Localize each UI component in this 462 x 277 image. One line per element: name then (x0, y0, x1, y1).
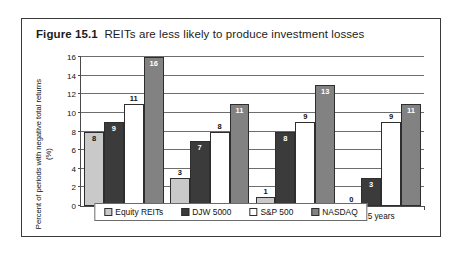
legend-label: Equity REITs (115, 207, 163, 217)
bar[interactable]: 9 (381, 122, 401, 206)
bar-value-label: 3 (178, 169, 182, 177)
bar-group: 891116 (81, 57, 167, 206)
bar[interactable]: 9 (295, 122, 315, 206)
bar[interactable]: 8 (275, 132, 295, 207)
y-tick-label: 6 (72, 146, 76, 155)
bar-value-label: 7 (198, 144, 202, 152)
figure-number: Figure 15.1 (36, 28, 98, 40)
bar-value-label: 11 (235, 107, 243, 115)
legend-item[interactable]: DJW 5000 (181, 207, 231, 217)
y-tick-label: 14 (67, 71, 76, 80)
y-tick-label: 0 (72, 202, 76, 211)
bar[interactable]: 8 (84, 132, 104, 207)
bar-value-label: 8 (283, 135, 287, 143)
bar-value-label: 9 (389, 113, 393, 121)
figure-box: Figure 15.1 REITs are less likely to pro… (21, 18, 441, 237)
bar-value-label: 11 (407, 107, 415, 115)
y-tick-label: 4 (72, 164, 76, 173)
bar[interactable]: 8 (210, 132, 230, 207)
bar-value-label: 9 (303, 113, 307, 121)
legend-item[interactable]: NASDAQ (311, 207, 357, 217)
bar-value-label: 1 (263, 188, 267, 196)
x-category-label: 5 years (368, 212, 395, 221)
y-tick-label: 10 (67, 108, 76, 117)
bar[interactable]: 11 (401, 104, 421, 206)
y-tick-label: 2 (72, 183, 76, 192)
y-axis-title: Percent of periods with negative total r… (34, 74, 56, 234)
legend-item[interactable]: S&P 500 (249, 207, 293, 217)
bar-value-label: 8 (92, 135, 96, 143)
legend-swatch (181, 208, 189, 216)
bars-layer: 8911162 years378113 years189134 years039… (81, 57, 424, 206)
bar-value-label: 11 (130, 95, 138, 103)
bar-group: 03911 (338, 57, 424, 206)
bar-group: 18913 (253, 57, 339, 206)
bar[interactable]: 16 (144, 57, 164, 206)
legend-swatch (311, 208, 319, 216)
legend-label: S&P 500 (260, 207, 293, 217)
x-tick-mark (424, 206, 425, 210)
bar[interactable]: 9 (104, 122, 124, 206)
bar-value-label: 9 (112, 125, 116, 133)
plot-frame: 0246810121416 8911162 years378113 years1… (80, 57, 424, 207)
bar-value-label: 3 (369, 181, 373, 189)
figure-caption-text: REITs are less likely to produce investm… (104, 28, 364, 40)
bar-group: 37811 (167, 57, 253, 206)
bar-value-label: 8 (217, 123, 221, 131)
legend-swatch (249, 208, 257, 216)
legend-item[interactable]: Equity REITs (104, 207, 163, 217)
bar[interactable]: 3 (361, 178, 381, 206)
legend-swatch (104, 208, 112, 216)
bar[interactable]: 11 (230, 104, 250, 206)
figure-caption: Figure 15.1 REITs are less likely to pro… (36, 28, 364, 40)
legend-label: DJW 5000 (192, 207, 231, 217)
chart-area: Percent of periods with negative total r… (36, 55, 428, 225)
y-tick-label: 12 (67, 90, 76, 99)
chart-legend: Equity REITsDJW 5000S&P 500NASDAQ (94, 203, 367, 221)
bar[interactable]: 7 (190, 141, 210, 206)
bar[interactable]: 11 (124, 104, 144, 206)
bar[interactable]: 3 (170, 178, 190, 206)
bar-value-label: 13 (321, 88, 329, 96)
y-tick-label: 8 (72, 127, 76, 136)
legend-label: NASDAQ (322, 207, 357, 217)
bar-value-label: 16 (150, 60, 158, 68)
bar[interactable]: 13 (315, 85, 335, 206)
y-tick-label: 16 (67, 53, 76, 62)
